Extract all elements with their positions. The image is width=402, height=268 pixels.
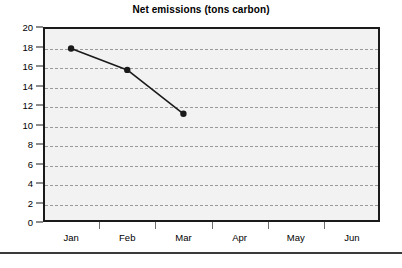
chart-figure: Net emissions (tons carbon) 024681012141… <box>0 0 402 268</box>
gridline-8 <box>45 146 378 147</box>
y-tick-mark-8 <box>36 144 43 145</box>
y-tick-label-10: 10 <box>7 119 33 130</box>
gridline-18 <box>45 49 378 50</box>
x-tick-mark-2 <box>155 222 156 229</box>
chart-title: Net emissions (tons carbon) <box>0 4 402 15</box>
y-tick-mark-10 <box>36 124 43 125</box>
gridline-2 <box>45 205 378 206</box>
y-tick-label-20: 20 <box>7 22 33 33</box>
y-tick-label-2: 2 <box>7 197 33 208</box>
y-tick-label-18: 18 <box>7 41 33 52</box>
gridline-16 <box>45 68 378 69</box>
x-axis: JanFebMarAprMayJun <box>43 222 380 262</box>
y-tick-mark-12 <box>36 105 43 106</box>
gridline-6 <box>45 166 378 167</box>
x-tick-label-jan: Jan <box>63 232 78 243</box>
y-tick-mark-14 <box>36 85 43 86</box>
y-tick-mark-18 <box>36 46 43 47</box>
x-tick-label-apr: Apr <box>232 232 247 243</box>
y-tick-mark-0 <box>36 222 43 223</box>
y-tick-mark-6 <box>36 163 43 164</box>
gridlines-group <box>45 29 378 220</box>
gridline-12 <box>45 107 378 108</box>
plot-area <box>43 27 380 222</box>
x-tick-mark-3 <box>212 222 213 229</box>
y-tick-label-0: 0 <box>7 217 33 228</box>
y-axis: 02468101214161820 <box>0 18 43 231</box>
y-tick-label-16: 16 <box>7 61 33 72</box>
y-tick-mark-16 <box>36 66 43 67</box>
x-tick-mark-4 <box>268 222 269 229</box>
y-tick-mark-4 <box>36 183 43 184</box>
y-tick-mark-2 <box>36 202 43 203</box>
y-tick-label-12: 12 <box>7 100 33 111</box>
x-tick-mark-5 <box>324 222 325 229</box>
y-tick-mark-20 <box>36 27 43 28</box>
gridline-4 <box>45 185 378 186</box>
y-tick-label-14: 14 <box>7 80 33 91</box>
y-tick-label-8: 8 <box>7 139 33 150</box>
x-tick-mark-1 <box>99 222 100 229</box>
y-tick-label-6: 6 <box>7 158 33 169</box>
x-tick-label-may: May <box>287 232 305 243</box>
x-tick-label-jun: Jun <box>344 232 359 243</box>
gridline-14 <box>45 88 378 89</box>
gridline-10 <box>45 127 378 128</box>
x-tick-label-feb: Feb <box>119 232 135 243</box>
y-tick-label-4: 4 <box>7 178 33 189</box>
bottom-divider <box>0 252 402 254</box>
x-tick-label-mar: Mar <box>175 232 191 243</box>
